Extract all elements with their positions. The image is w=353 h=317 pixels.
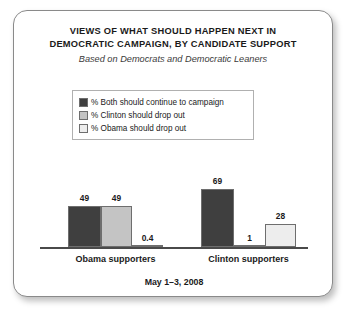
legend-swatch-dark [79,98,88,107]
legend-label-both-continue: % Both should continue to campaign [91,98,224,107]
legend-swatch-mid [79,111,88,120]
bar: 49 [68,206,101,248]
bar-rect [101,206,132,248]
chart-legend: % Both should continue to campaign % Cli… [72,90,254,140]
bar-rect [68,206,101,248]
legend-item-clinton-drop-out: % Clinton should drop out [79,109,248,121]
legend-item-both-continue: % Both should continue to campaign [79,96,248,108]
chart-title-line-2: DEMOCRATIC CAMPAIGN, BY CANDIDATE SUPPOR… [14,38,332,51]
legend-swatch-light [79,124,88,133]
bar: 28 [265,224,296,248]
chart-subtitle: Based on Democrats and Democratic Leaner… [14,52,332,67]
plot-area: 49490.4 69128 [40,151,308,249]
category-label-obama-supporters: Obama supporters [75,254,155,264]
chart-title-line-1: VIEWS OF WHAT SHOULD HAPPEN NEXT IN [14,25,332,38]
category-axis-labels: Obama supporters Clinton supporters [40,254,308,268]
bar-group-clinton-supporters: 69128 [201,189,296,248]
legend-label-obama-drop-out: % Obama should drop out [91,124,186,133]
bar-value-label: 28 [276,211,285,221]
bar: 69 [201,189,234,248]
bar-group-obama-supporters: 49490.4 [68,206,163,248]
bar-value-label: 49 [80,193,89,203]
bar: 49 [101,206,132,248]
legend-item-obama-drop-out: % Obama should drop out [79,122,248,134]
bar-value-label: 69 [213,176,222,186]
bar-rect [265,224,296,248]
bar-rect [201,189,234,248]
bar-value-label: 1 [247,233,252,243]
legend-label-clinton-drop-out: % Clinton should drop out [91,111,185,120]
title-block: VIEWS OF WHAT SHOULD HAPPEN NEXT IN DEMO… [14,25,332,67]
bar-value-label: 0.4 [142,233,154,243]
category-label-clinton-supporters: Clinton supporters [208,254,289,264]
x-axis-line [40,247,308,249]
survey-date-note: May 1–3, 2008 [14,277,334,287]
chart-card: VIEWS OF WHAT SHOULD HAPPEN NEXT IN DEMO… [13,10,333,297]
bar-value-label: 49 [112,193,121,203]
